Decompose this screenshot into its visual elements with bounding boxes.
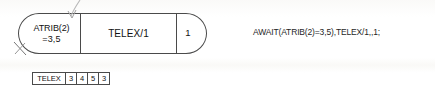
await-node-attribute-condition: ATRIB(2) =3,5 — [19, 14, 80, 53]
file-table-entry: 4 — [76, 73, 87, 84]
file-table-label: TELEX — [33, 73, 65, 84]
await-node-symbol: ATRIB(2) =3,5 TELEX/1 1 — [18, 13, 207, 54]
file-table-entry: 3 — [65, 73, 76, 84]
file-table-entry: 5 — [87, 73, 98, 84]
await-statement-text: AWAIT(ATRIB(2)=3,5),TELEX/1,,1; — [253, 27, 380, 37]
file-contents-table: TELEX 3 4 5 3 — [32, 72, 110, 85]
attribute-condition-line-1: ATRIB(2) — [33, 23, 69, 33]
await-node-file-label: TELEX/1 — [80, 14, 177, 53]
attribute-condition-line-2: =3,5 — [33, 34, 69, 44]
file-table-entry: 3 — [98, 73, 109, 84]
await-node-capacity: 1 — [177, 14, 206, 53]
